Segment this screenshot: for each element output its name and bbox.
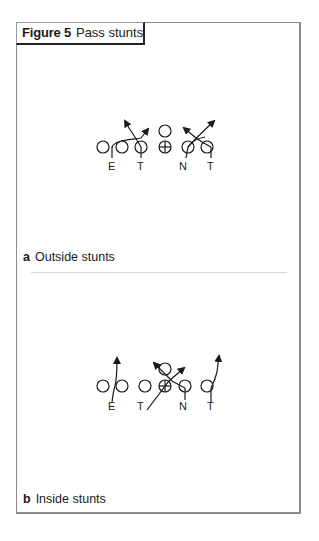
caption-text: Inside stunts: [36, 492, 106, 506]
player-circle: [97, 380, 109, 392]
caption-letter: b: [23, 492, 31, 506]
label-t: T: [207, 400, 214, 412]
label-t: T: [137, 400, 144, 412]
player-circle: [139, 380, 151, 392]
player-circle: [116, 380, 128, 392]
label-n: N: [179, 400, 187, 412]
label-e: E: [108, 400, 115, 412]
caption-b: bInside stunts: [23, 491, 106, 507]
diagram-inside-stunts: E T N T: [0, 0, 319, 541]
